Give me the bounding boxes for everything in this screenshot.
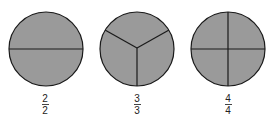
fraction-label-halves: 2 2 [35, 94, 55, 115]
denominator: 2 [42, 106, 48, 115]
denominator: 4 [225, 106, 231, 115]
circle-halves [9, 12, 83, 86]
numerator: 2 [42, 94, 48, 103]
fraction-label-thirds: 3 3 [127, 94, 147, 115]
numerator: 3 [134, 94, 140, 103]
denominator: 3 [134, 106, 140, 115]
circle-fourths [191, 12, 265, 86]
numerator: 4 [225, 94, 231, 103]
circle-thirds [100, 12, 174, 86]
fraction-label-fourths: 4 4 [218, 94, 238, 115]
